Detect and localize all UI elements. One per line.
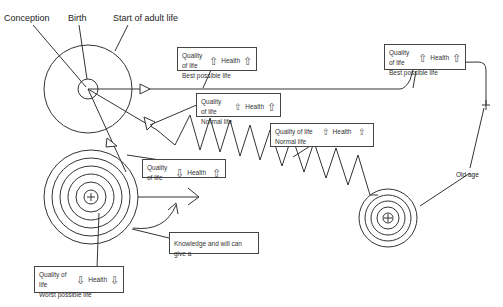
health-label: Health: [333, 127, 352, 137]
life-desc: Best possible life: [389, 68, 461, 78]
health-label: Health: [430, 53, 449, 63]
birth-pointer: [79, 25, 87, 79]
life-course-diagram: Conception Birth Start of adult life Old…: [0, 0, 503, 307]
quality-label: Quality of life: [201, 97, 227, 117]
health-label: Health: [187, 168, 206, 178]
box-best-life-1: Quality of life⇧Health⇧ Best possible li…: [177, 47, 257, 71]
down-arrow-icon: ⇩: [76, 276, 85, 285]
old-age-spiral: [359, 189, 417, 247]
box-normal-life-1: Quality of life⇧Health⇧ Normal life: [196, 93, 281, 117]
up-arrow-icon: ⇧: [234, 103, 242, 112]
up-arrow-icon: ⇧: [358, 128, 366, 137]
up-arrow-icon: ⇧: [418, 54, 427, 63]
life-desc: Best possible life: [182, 71, 252, 81]
quality-label: Quality of life: [389, 48, 415, 68]
life-desc: Normal life: [201, 117, 276, 127]
label-conception: Conception: [4, 13, 50, 23]
label-old-age: Old age: [456, 171, 479, 178]
quality-label: Quality of life: [275, 127, 313, 137]
down-arrow-icon: ⇩: [175, 169, 184, 178]
box-best-life-2: Quality of life⇧Health⇧ Best possible li…: [384, 44, 466, 70]
health-label: Health: [88, 275, 107, 285]
box-quality-down-health-up: Quality of life⇩Health⇧: [142, 159, 226, 178]
down-arrow-icon: ⇩: [110, 276, 119, 285]
up-arrow-icon: ⇧: [267, 103, 276, 112]
box-knowledge: Knowledge and will can give a: [169, 232, 259, 254]
box-normal-life-2: Quality of life⇧Health⇧ Normal life: [270, 123, 374, 147]
quality-label: Quality of life: [39, 270, 73, 290]
adult-pointer: [115, 25, 128, 51]
health-label: Health: [221, 56, 240, 66]
quality-label: Quality of life: [182, 51, 206, 71]
up-arrow-icon: ⇧: [209, 57, 218, 66]
conception-pointer: [33, 25, 86, 87]
life-desc: Normal life: [275, 137, 369, 147]
label-start-adult-life: Start of adult life: [113, 13, 178, 23]
quality-label: Quality of life: [147, 163, 172, 183]
up-arrow-icon: ⇧: [243, 57, 252, 66]
health-label: Health: [245, 102, 264, 112]
up-arrow-icon: ⇧: [212, 169, 221, 178]
box-worst-life: Quality of life⇩Health⇩ Worst possible l…: [34, 266, 124, 293]
worst-life-spiral: [44, 150, 138, 244]
up-arrow-icon: ⇧: [322, 128, 330, 137]
life-desc: Worst possible life: [39, 290, 119, 300]
label-birth: Birth: [68, 13, 87, 23]
knowledge-text: Knowledge and will can give a: [174, 239, 254, 259]
up-arrow-icon: ⇧: [452, 54, 461, 63]
